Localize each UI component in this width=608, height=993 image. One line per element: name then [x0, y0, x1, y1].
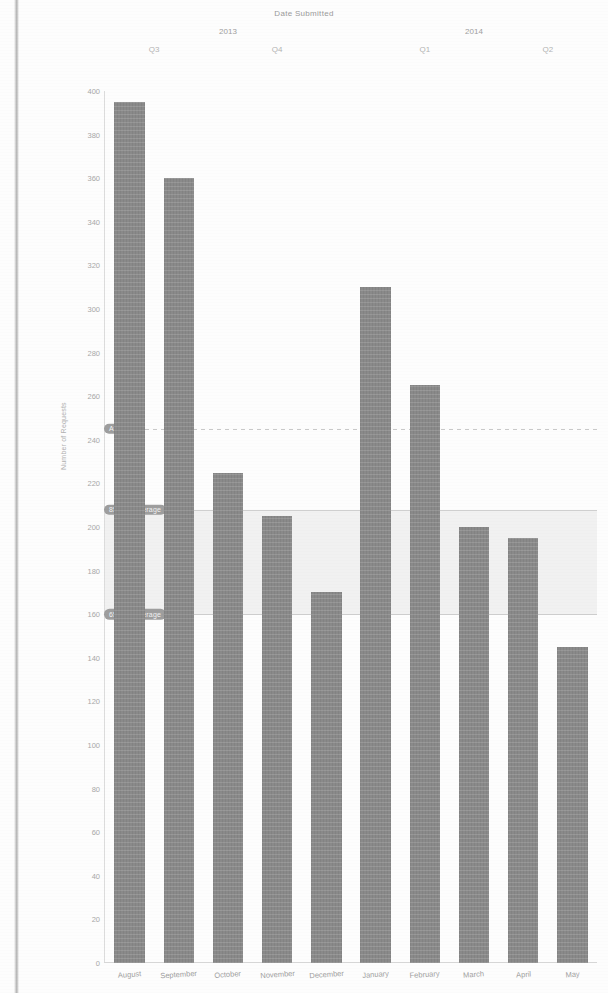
y-axis-tick-label: 20: [60, 915, 100, 924]
y-axis-tick-label: 260: [60, 392, 100, 401]
y-axis-tick-label: 320: [60, 261, 100, 270]
y-axis-tick-label: 100: [60, 741, 100, 750]
year-group-label: 2013: [198, 27, 258, 36]
x-axis-tick-label: September: [154, 968, 204, 980]
y-axis-tick-label: 360: [60, 174, 100, 183]
x-axis-tick-label: October: [203, 968, 253, 980]
bar[interactable]: [213, 473, 244, 964]
quarter-group-label: Q3: [132, 45, 176, 54]
bar[interactable]: [508, 538, 539, 963]
y-axis-tick-label: 220: [60, 479, 100, 488]
bar-chart: Date Submitted 20132014 Q3Q4Q1Q2 Number …: [0, 0, 608, 993]
quarter-group-label: Q4: [255, 45, 299, 54]
y-axis-tick-label: 200: [60, 523, 100, 532]
bar[interactable]: [164, 178, 195, 963]
y-axis-tick-labels: 4003803603403203002802602402202001801601…: [55, 91, 100, 963]
year-group-label: 2014: [444, 27, 504, 36]
bar[interactable]: [311, 592, 342, 963]
bar[interactable]: [410, 385, 441, 963]
x-axis-tick-label: August: [105, 968, 155, 980]
y-axis-tick-label: 180: [60, 566, 100, 575]
x-axis-tick-label: November: [252, 968, 302, 980]
bar[interactable]: [360, 287, 391, 963]
x-axis-tick-labels: AugustSeptemberOctoberNovemberDecemberJa…: [105, 966, 597, 990]
chart-title: Date Submitted: [0, 9, 608, 18]
y-axis-tick-label: 60: [60, 828, 100, 837]
x-axis-tick-label: April: [498, 968, 548, 980]
y-axis-tick-label: 80: [60, 784, 100, 793]
quarter-group-label: Q1: [403, 45, 447, 54]
y-axis-tick-label: 120: [60, 697, 100, 706]
x-axis-tick-label: March: [449, 968, 499, 980]
x-axis-tick-label: May: [548, 968, 598, 980]
y-axis-tick-label: 40: [60, 871, 100, 880]
x-axis-tick-label: January: [351, 968, 401, 980]
bar[interactable]: [459, 527, 490, 963]
y-axis-tick-label: 140: [60, 653, 100, 662]
plot-area: Average85% of Average65% of Average: [105, 91, 597, 963]
bar[interactable]: [114, 102, 145, 963]
bar[interactable]: [262, 516, 293, 963]
quarter-group-label: Q2: [526, 45, 570, 54]
y-axis-tick-label: 240: [60, 435, 100, 444]
y-axis-tick-label: 160: [60, 610, 100, 619]
y-axis-tick-label: 280: [60, 348, 100, 357]
y-axis-tick-label: 400: [60, 87, 100, 96]
bar[interactable]: [557, 647, 588, 963]
x-axis-tick-label: February: [400, 968, 450, 980]
y-axis-tick-label: 340: [60, 217, 100, 226]
y-axis-tick-label: 0: [60, 959, 100, 968]
x-axis-tick-label: December: [302, 968, 352, 980]
y-axis-tick-label: 380: [60, 130, 100, 139]
y-axis-tick-label: 300: [60, 305, 100, 314]
